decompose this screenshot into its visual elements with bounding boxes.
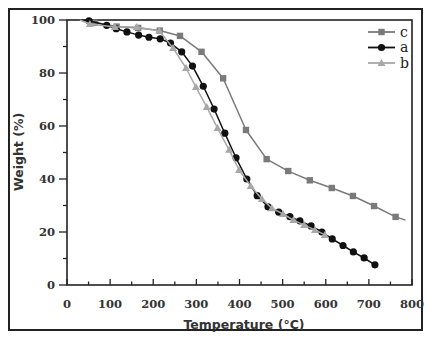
square-marker [285, 168, 291, 174]
circle-marker [371, 261, 378, 268]
square-marker [243, 127, 249, 133]
x-axis-title: Temperature (°C) [183, 317, 304, 332]
circle-marker [145, 34, 152, 41]
x-tick-label: 100 [98, 297, 122, 311]
square-marker [371, 203, 377, 209]
x-tick-label: 200 [141, 297, 165, 311]
square-marker [329, 185, 335, 191]
x-tick-label: 700 [357, 297, 381, 311]
circle-marker [339, 242, 346, 249]
square-marker [198, 49, 204, 55]
square-marker [307, 177, 313, 183]
y-tick-label: 0 [47, 278, 55, 292]
square-marker [177, 33, 183, 39]
legend-label: a [400, 39, 408, 55]
y-tick-label: 60 [39, 119, 55, 133]
circle-marker [350, 248, 357, 255]
legend-label: b [400, 55, 409, 71]
y-tick-label: 20 [39, 225, 55, 239]
circle-marker [329, 235, 336, 242]
x-tick-label: 800 [400, 297, 424, 311]
triangle-marker [192, 83, 200, 90]
x-tick-label: 500 [271, 297, 295, 311]
square-marker [392, 214, 398, 220]
circle-marker [210, 105, 217, 112]
circle-marker [200, 83, 207, 90]
x-tick-label: 400 [227, 297, 251, 311]
legend: cab [368, 24, 409, 71]
series-a [80, 17, 379, 268]
circle-marker [361, 254, 368, 261]
circle-marker [135, 32, 142, 39]
legend-item-c: c [368, 24, 408, 40]
tga-chart: 0100200300400500600700800020406080100 ca… [0, 0, 431, 343]
circle-marker [189, 63, 196, 70]
triangle-marker [203, 103, 211, 110]
y-tick-label: 40 [39, 172, 55, 186]
series-c [80, 19, 406, 220]
triangle-marker [214, 124, 222, 131]
axes: 0100200300400500600700800020406080100 [31, 13, 424, 311]
y-tick-label: 80 [39, 66, 55, 80]
x-tick-label: 0 [63, 297, 71, 311]
circle-marker [178, 48, 185, 55]
y-tick-label: 100 [31, 13, 55, 27]
circle-marker [378, 44, 385, 51]
square-marker [378, 29, 384, 35]
legend-label: c [400, 24, 408, 40]
square-marker [220, 75, 226, 81]
x-tick-label: 300 [184, 297, 208, 311]
legend-item-a: a [368, 39, 408, 55]
y-axis-title: Weight (%) [11, 113, 26, 191]
x-tick-label: 600 [314, 297, 338, 311]
circle-marker [123, 28, 130, 35]
data-series [80, 17, 406, 268]
square-marker [263, 156, 269, 162]
square-marker [350, 193, 356, 199]
legend-item-b: b [368, 55, 409, 71]
plot-area [67, 20, 412, 285]
